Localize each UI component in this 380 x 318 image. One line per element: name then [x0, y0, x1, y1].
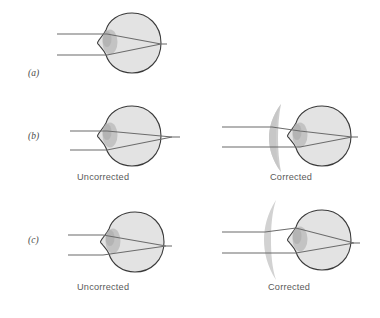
- panel-b-letter: (b): [28, 131, 39, 142]
- panel-c-uncorrected-caption: Uncorrected: [77, 282, 129, 292]
- eyeball-b-uncorrected: [98, 106, 162, 166]
- panel-c-uncorrected-view: Uncorrected: [68, 212, 172, 292]
- panel-b-corrected-view: Corrected: [222, 104, 358, 182]
- eyeball-c-uncorrected: [101, 212, 165, 272]
- corrective-lens-b: [269, 104, 281, 172]
- panel-b: (b) Uncorrected: [28, 104, 358, 182]
- panel-c-letter: (c): [28, 235, 39, 246]
- panel-c-corrected-view: Corrected: [222, 200, 360, 292]
- panel-b-uncorrected-view: Uncorrected: [70, 106, 180, 182]
- panel-b-corrected-caption: Corrected: [270, 172, 312, 182]
- eye-optics-figure: (a) (b): [0, 0, 380, 318]
- panel-c: (c) Uncorrected: [28, 200, 360, 292]
- eyeball-a: [98, 13, 162, 73]
- panel-a: (a): [28, 13, 167, 79]
- panel-c-corrected-caption: Corrected: [268, 282, 310, 292]
- panel-b-uncorrected-caption: Uncorrected: [77, 172, 129, 182]
- panel-a-letter: (a): [28, 68, 39, 79]
- diagram-canvas: (a) (b): [0, 0, 380, 318]
- panel-a-normal-view: [57, 13, 167, 73]
- corrective-lens-c: [264, 200, 276, 280]
